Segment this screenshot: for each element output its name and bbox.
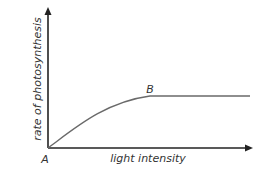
x-axis-label: light intensity <box>110 152 186 165</box>
y-axis-label: rate of photosynthesis <box>31 17 44 141</box>
photosynthesis-curve <box>48 96 250 148</box>
y-axis-arrow-icon <box>45 7 52 15</box>
graph: rate of photosynthesis light intensity A… <box>0 0 262 170</box>
point-b-label: B <box>146 83 154 96</box>
x-axis-arrow-icon <box>245 145 253 152</box>
point-a-label: A <box>40 153 49 166</box>
